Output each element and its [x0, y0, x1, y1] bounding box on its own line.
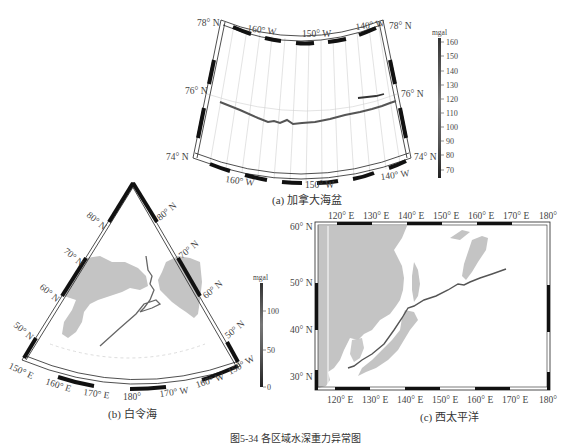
panel-a-lon-top-150w: 150° W: [302, 29, 331, 39]
cb-a-tick: 80: [446, 151, 454, 160]
panel-c-lon-bottom: 140° E: [397, 395, 423, 405]
cb-a-tick: 140: [446, 67, 458, 76]
panel-b-lat-right-80: 80° N: [155, 200, 179, 222]
panel-a-caption: (a) 加拿大海盆: [272, 191, 342, 207]
cb-b-tick: 100: [267, 307, 279, 316]
panel-b-map: [22, 182, 240, 389]
panel-c-land-kamchatka: [462, 236, 488, 280]
panel-b-colorbar-unit: mgal: [253, 273, 268, 282]
panel-c-lon-top: 130° E: [363, 211, 389, 221]
panel-b-land-asia: [62, 256, 148, 338]
panel-a-lat-left-78: 78° N: [197, 18, 220, 28]
cb-b-tick: 50: [267, 346, 275, 355]
panel-b-lat-left-50: 50° N: [12, 320, 36, 342]
panel-a-lon-bottom-140w: 140° W: [380, 168, 410, 182]
panel-c-lon-bottom: 180°: [539, 395, 557, 405]
cb-a-tick: 120: [446, 95, 458, 104]
cb-a-tick: 110: [446, 109, 458, 118]
panel-c-lon-top: 170° E: [503, 211, 529, 221]
panel-b-caption: (b) 白令海: [108, 405, 157, 421]
panel-b-colorbar: mgal 100 50 0: [253, 273, 279, 392]
panel-c-lat-left: 60° N: [290, 222, 313, 232]
panel-a-map: [193, 20, 411, 183]
panel-c-lon-top: 160° E: [468, 211, 494, 221]
panel-c-lat-left: 30° N: [290, 372, 313, 382]
panel-b-lat-right-70: 70° N: [177, 238, 201, 260]
cb-a-tick: 70: [446, 166, 454, 175]
panel-c-lon-top: 150° E: [433, 211, 459, 221]
panel-a-lat-right-74: 74° N: [414, 152, 437, 162]
panel-c-map: [315, 222, 550, 390]
panel-a-lat-left-76: 76° N: [185, 86, 208, 96]
panel-a-track-north: [358, 94, 384, 98]
panel-a-colorbar-unit: mgal: [432, 28, 447, 37]
panel-c-lon-bottom: 150° E: [432, 395, 458, 405]
panel-c-lon-top: 140° E: [398, 211, 424, 221]
panel-b-lat-right-50: 50° N: [223, 318, 247, 340]
cb-a-tick: 130: [446, 81, 458, 90]
cb-b-tick: 0: [267, 383, 271, 392]
panel-c-lon-bottom: 160° E: [467, 395, 493, 405]
cb-a-tick: 160: [446, 38, 458, 47]
panel-c-lon-bottom: 170° E: [502, 395, 528, 405]
panel-c-lon-top: 120° E: [328, 211, 354, 221]
cb-a-tick: 90: [446, 137, 454, 146]
panel-b-lat-left-80: 80° N: [85, 210, 109, 232]
panel-a-graticule: [207, 22, 400, 183]
panel-a-lat-left-74: 74° N: [166, 152, 189, 162]
panel-a-lon-bottom-150w: 150° W: [305, 180, 334, 190]
figure-caption: 图5-34 各区域水深重力异常图: [230, 430, 361, 445]
panel-c-lon-bottom: 120° E: [327, 395, 353, 405]
panel-c-lon-bottom: 130° E: [362, 395, 388, 405]
panel-c-lon-top: 180°: [539, 211, 557, 221]
panel-b-lat-right-60: 60° N: [201, 278, 225, 300]
panel-c-caption: (c) 西太平洋: [420, 408, 479, 424]
panel-c-land-korea: [350, 338, 364, 362]
panel-c-land-asia: [318, 226, 407, 388]
panel-c-lat-left: 50° N: [290, 278, 313, 288]
panel-a-lat-right-78: 78° N: [389, 21, 412, 31]
cb-a-tick: 100: [446, 123, 458, 132]
panel-b-lon-160w: 160° W: [195, 371, 226, 390]
panel-b-lon-180: 180°: [123, 392, 141, 402]
cb-a-tick: 150: [446, 52, 458, 61]
panel-c-lat-left: 40° N: [290, 325, 313, 335]
panel-c-land-sakhalin: [412, 262, 420, 302]
panel-a-lat-right-76: 76° N: [401, 89, 424, 99]
panel-b-lon-170e: 170° E: [83, 387, 111, 401]
panel-b-lat-left-60: 60° N: [38, 282, 62, 304]
